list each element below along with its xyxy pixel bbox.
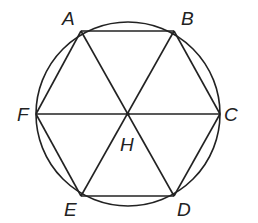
side-fa — [36, 31, 81, 114]
center-point — [126, 112, 130, 116]
label-c: C — [224, 104, 238, 125]
label-b: B — [181, 8, 194, 29]
hexagon-diagram: A B C D E F H — [0, 0, 258, 223]
side-cd — [174, 114, 220, 196]
label-h: H — [120, 134, 134, 155]
side-ef — [36, 114, 81, 196]
label-d: D — [177, 199, 191, 220]
side-bc — [174, 31, 220, 114]
label-f: F — [17, 104, 30, 125]
label-e: E — [64, 199, 77, 220]
label-a: A — [61, 8, 75, 29]
